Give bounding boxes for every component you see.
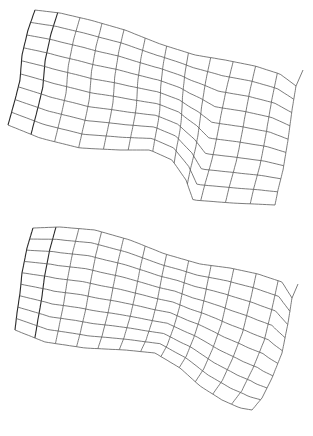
mesh-column-line: [213, 274, 256, 395]
mesh-edge-tail: [296, 70, 303, 86]
mesh-column-line: [31, 13, 58, 135]
mesh-column-line: [55, 229, 79, 344]
mesh-row-line: [30, 239, 290, 311]
figure: [0, 0, 313, 436]
mesh-column-line: [8, 10, 35, 125]
mesh-column-line: [161, 261, 189, 357]
mesh-column-line: [79, 23, 102, 147]
mesh-column-line: [250, 73, 277, 204]
mesh-column-line: [15, 228, 33, 330]
mesh-column-line: [98, 238, 124, 348]
mesh-row-line: [21, 74, 286, 152]
mesh-column-line: [141, 254, 167, 351]
mesh-column-line: [252, 298, 292, 410]
mesh-column-line: [275, 86, 296, 205]
mesh-row-line: [35, 10, 296, 86]
mesh-column-line: [35, 227, 56, 338]
mesh-column-line: [119, 246, 145, 350]
lower-mesh-wireframe: [0, 218, 313, 436]
mesh-row-line: [12, 112, 278, 192]
mesh-column-line: [179, 266, 211, 368]
mesh-column-line: [104, 30, 125, 150]
mesh-column-line: [55, 18, 80, 142]
mesh-row-line: [24, 48, 290, 126]
mesh-row-line: [22, 273, 282, 351]
mesh-column-line: [174, 53, 188, 163]
mesh-row-line: [16, 319, 260, 400]
mesh-column-line: [128, 38, 145, 150]
mesh-column-line: [77, 232, 102, 347]
mesh-column-line: [225, 66, 255, 202]
mesh-column-line: [153, 46, 167, 151]
mesh-edge-tail: [292, 284, 298, 298]
mesh-row-line: [15, 330, 252, 410]
upper-mesh-wireframe: [0, 0, 313, 215]
mesh-row-line: [24, 262, 285, 338]
